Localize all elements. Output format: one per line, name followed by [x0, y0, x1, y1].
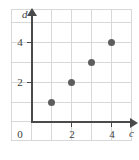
gridline-horizontal	[11, 102, 132, 103]
data-point	[108, 39, 115, 46]
y-tick-label-4: 4	[13, 37, 27, 48]
x-tick-label-4: 4	[105, 129, 119, 140]
gridline-horizontal	[11, 22, 132, 23]
origin-label: 0	[13, 129, 27, 140]
scatter-plot-figure: d c 0 4 2 2 4	[0, 0, 139, 160]
x-axis-tickmark	[111, 123, 112, 127]
x-axis-tickmark	[71, 123, 72, 127]
y-tick-label-2: 2	[13, 77, 27, 88]
data-point	[88, 59, 95, 66]
x-axis-label: c	[129, 128, 134, 139]
y-axis-label: d	[22, 9, 28, 20]
x-axis-line	[31, 121, 132, 123]
data-point	[48, 99, 55, 106]
y-axis-tickmark	[27, 42, 31, 43]
x-tick-label-2: 2	[65, 129, 79, 140]
y-axis-tickmark	[27, 82, 31, 83]
y-axis-line	[31, 14, 33, 123]
gridline-horizontal	[11, 140, 132, 141]
y-axis-arrowhead-icon	[27, 8, 37, 16]
data-point	[68, 79, 75, 86]
gridline-horizontal	[11, 62, 132, 63]
